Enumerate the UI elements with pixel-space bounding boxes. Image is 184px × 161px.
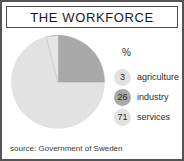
legend-item-services: 71 services bbox=[110, 108, 178, 126]
title-box: THE WORKFORCE bbox=[6, 6, 178, 28]
legend-value-badge-services: 71 bbox=[114, 109, 131, 126]
legend-label-services: services bbox=[137, 113, 170, 122]
page-title: THE WORKFORCE bbox=[30, 11, 153, 24]
legend-label-industry: industry bbox=[137, 93, 169, 102]
legend-value-badge-industry: 26 bbox=[114, 89, 131, 106]
source-attribution: source: Government of Sweden bbox=[10, 145, 123, 153]
legend-unit-label: % bbox=[122, 48, 131, 58]
chart-area: % 3 agriculture 26 industry 71 services bbox=[6, 30, 178, 133]
legend: % 3 agriculture 26 industry 71 services bbox=[110, 38, 178, 130]
workforce-infographic: THE WORKFORCE % 3 agriculture 26 industr… bbox=[0, 0, 184, 161]
legend-value-badge-agriculture: 3 bbox=[114, 69, 131, 86]
legend-label-agriculture: agriculture bbox=[137, 73, 179, 82]
pie-chart bbox=[10, 34, 106, 130]
legend-item-agriculture: 3 agriculture bbox=[110, 68, 178, 86]
pie-chart-svg bbox=[10, 34, 106, 130]
legend-item-industry: 26 industry bbox=[110, 88, 178, 106]
